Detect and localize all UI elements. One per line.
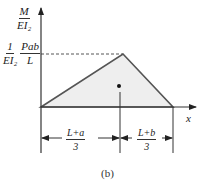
peak-frac: Pab L bbox=[20, 41, 40, 66]
dim-right-den: 3 bbox=[144, 140, 149, 152]
moment-diagram bbox=[0, 0, 213, 183]
peak-label: 1 EI₂ Pab L bbox=[3, 41, 40, 66]
x-axis-label: x bbox=[186, 113, 191, 124]
dim-left-label: L+a 3 bbox=[66, 127, 85, 152]
peak-frac-num: Pab bbox=[20, 41, 40, 54]
peak-coef: 1 EI₂ bbox=[3, 41, 17, 66]
y-axis-label-den: EI₂ bbox=[17, 19, 31, 31]
moment-triangle bbox=[41, 54, 173, 107]
dim-right-num: L+b bbox=[137, 127, 156, 140]
peak-frac-den: L bbox=[27, 54, 33, 66]
y-axis-label-num: M bbox=[19, 6, 30, 19]
centroid-dot bbox=[117, 84, 121, 88]
figure-caption: (b) bbox=[101, 167, 114, 179]
peak-coef-num: 1 bbox=[6, 41, 14, 54]
dim-left-den: 3 bbox=[73, 140, 78, 152]
dim-right-label: L+b 3 bbox=[137, 127, 156, 152]
dim-left-num: L+a bbox=[66, 127, 85, 140]
y-axis-label: M EI₂ bbox=[17, 6, 31, 31]
peak-coef-den: EI₂ bbox=[3, 54, 17, 66]
